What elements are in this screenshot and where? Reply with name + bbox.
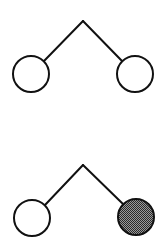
tree-unfilled [13,21,153,92]
left-node-empty [13,56,49,92]
right-node-shaded [118,199,154,235]
left-branch-line [44,21,83,61]
right-branch-line [83,165,123,204]
left-branch-line [45,165,83,205]
diagram-canvas [0,0,168,237]
tree-right-filled [14,165,154,236]
left-node-empty [14,200,50,236]
right-branch-line [83,21,122,61]
right-node-empty [117,56,153,92]
